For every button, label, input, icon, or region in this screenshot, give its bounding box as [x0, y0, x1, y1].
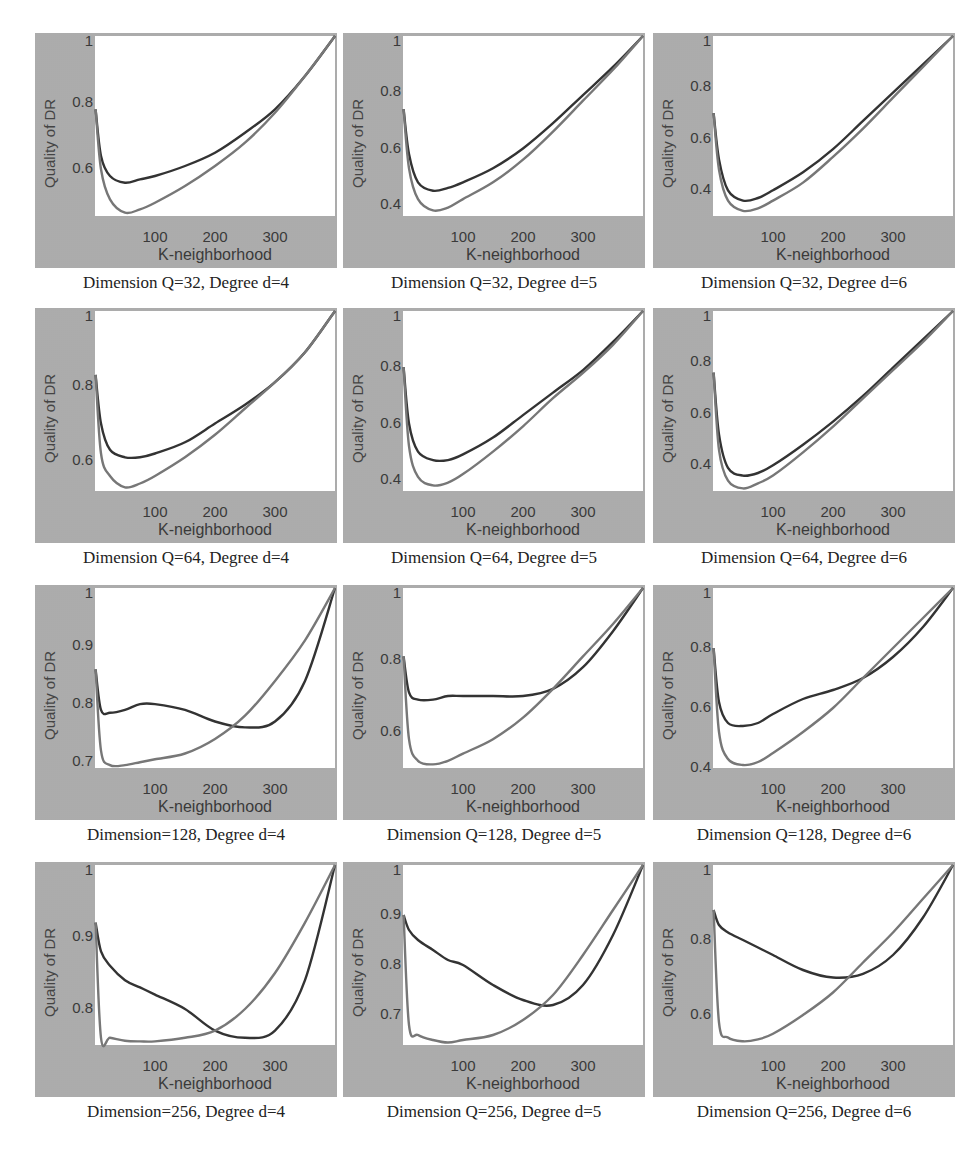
y-tick-label: 1 [369, 32, 401, 49]
chart-panel-10: Quality of DR K-neighborhood 100 200 300… [35, 862, 337, 1137]
x-tick-label: 100 [753, 228, 793, 245]
x-tick-label: 100 [135, 503, 175, 520]
series-line-dark [404, 311, 643, 461]
series-line-dark [96, 36, 335, 183]
chart-panel-7: Quality of DR K-neighborhood 100 200 300… [35, 585, 337, 860]
series-line-dark [404, 36, 643, 191]
series-line-light [96, 311, 335, 488]
panel-caption: Dimension Q=256, Degree d=6 [643, 1102, 965, 1122]
panel-caption: Dimension Q=32, Degree d=5 [333, 273, 655, 293]
panel-caption: Dimension=256, Degree d=4 [25, 1102, 347, 1122]
x-tick-label: 200 [813, 780, 853, 797]
y-axis-label: Quality of DR [349, 374, 366, 463]
series-line-light [714, 588, 953, 765]
y-tick-label: 0.8 [679, 77, 711, 94]
series-line-dark [714, 865, 953, 978]
panel-caption: Dimension Q=64, Degree d=4 [25, 548, 347, 568]
y-tick-label: 0.8 [61, 999, 93, 1016]
y-tick-label: 0.9 [369, 905, 401, 922]
y-axis-label: Quality of DR [349, 651, 366, 740]
x-tick-label: 300 [563, 1057, 603, 1074]
x-tick-label: 100 [443, 780, 483, 797]
panel-caption: Dimension Q=64, Degree d=6 [643, 548, 965, 568]
y-axis-label: Quality of DR [659, 928, 676, 1017]
series-line-dark [714, 36, 953, 201]
y-tick-label: 1 [679, 32, 711, 49]
x-tick-label: 100 [753, 1057, 793, 1074]
x-axis-label: K-neighborhood [403, 246, 643, 264]
y-axis-label: Quality of DR [41, 374, 58, 463]
y-tick-label: 0.8 [61, 694, 93, 711]
x-tick-label: 300 [563, 503, 603, 520]
y-tick-label: 0.8 [679, 930, 711, 947]
x-tick-label: 100 [443, 1057, 483, 1074]
x-tick-label: 100 [443, 503, 483, 520]
series-line-dark [714, 311, 953, 476]
x-axis-label: K-neighborhood [403, 521, 643, 539]
y-tick-label: 0.4 [369, 195, 401, 212]
chart-panel-12: Quality of DR K-neighborhood 100 200 300… [653, 862, 955, 1137]
x-axis-label: K-neighborhood [713, 521, 953, 539]
chart-panel-1: Quality of DR K-neighborhood 100 200 300… [35, 33, 337, 308]
y-axis-label: Quality of DR [349, 99, 366, 188]
y-tick-label: 0.7 [369, 1005, 401, 1022]
x-axis-label: K-neighborhood [713, 1075, 953, 1093]
x-tick-label: 200 [503, 503, 543, 520]
y-tick-label: 0.6 [679, 404, 711, 421]
panel-caption: Dimension Q=128, Degree d=6 [643, 825, 965, 845]
y-axis-label: Quality of DR [349, 928, 366, 1017]
series-line-light [96, 588, 335, 766]
chart-panel-8: Quality of DR K-neighborhood 100 200 300… [343, 585, 645, 860]
y-tick-label: 0.6 [369, 722, 401, 739]
y-tick-label: 1 [61, 584, 93, 601]
y-tick-label: 1 [679, 861, 711, 878]
x-tick-label: 300 [255, 503, 295, 520]
y-axis-label: Quality of DR [659, 99, 676, 188]
x-tick-label: 200 [195, 503, 235, 520]
series-line-light [404, 311, 643, 486]
x-axis-label: K-neighborhood [95, 246, 335, 264]
y-tick-label: 0.6 [369, 414, 401, 431]
x-tick-label: 200 [195, 228, 235, 245]
series-line-light [714, 311, 953, 488]
panel-caption: Dimension Q=256, Degree d=5 [333, 1102, 655, 1122]
x-axis-label: K-neighborhood [95, 1075, 335, 1093]
y-tick-label: 0.8 [679, 638, 711, 655]
x-tick-label: 100 [135, 1057, 175, 1074]
chart-panel-9: Quality of DR K-neighborhood 100 200 300… [653, 585, 955, 860]
chart-panel-4: Quality of DR K-neighborhood 100 200 300… [35, 308, 337, 583]
x-tick-label: 300 [873, 228, 913, 245]
x-tick-label: 100 [135, 780, 175, 797]
series-line-dark [404, 588, 643, 700]
panel-caption: Dimension Q=32, Degree d=6 [643, 273, 965, 293]
y-tick-label: 1 [61, 32, 93, 49]
x-axis-label: K-neighborhood [713, 246, 953, 264]
y-tick-label: 0.8 [679, 352, 711, 369]
chart-panel-5: Quality of DR K-neighborhood 100 200 300… [343, 308, 645, 583]
series-line-light [714, 36, 953, 211]
x-tick-label: 200 [195, 780, 235, 797]
y-tick-label: 1 [369, 307, 401, 324]
y-tick-label: 0.6 [679, 1005, 711, 1022]
x-tick-label: 300 [255, 1057, 295, 1074]
x-tick-label: 200 [813, 503, 853, 520]
x-tick-label: 100 [753, 503, 793, 520]
x-tick-label: 300 [873, 503, 913, 520]
series-line-dark [404, 865, 643, 1006]
y-axis-label: Quality of DR [41, 928, 58, 1017]
y-tick-label: 0.8 [369, 357, 401, 374]
series-line-light [404, 588, 643, 764]
y-tick-label: 0.7 [61, 752, 93, 769]
x-tick-label: 100 [753, 780, 793, 797]
x-tick-label: 100 [443, 228, 483, 245]
x-tick-label: 100 [135, 228, 175, 245]
y-tick-label: 1 [369, 584, 401, 601]
panel-caption: Dimension Q=128, Degree d=5 [333, 825, 655, 845]
y-axis-label: Quality of DR [659, 374, 676, 463]
x-tick-label: 300 [255, 780, 295, 797]
y-tick-label: 1 [61, 861, 93, 878]
series-line-light [404, 36, 643, 211]
y-tick-label: 0.6 [61, 451, 93, 468]
y-tick-label: 0.6 [61, 159, 93, 176]
panel-caption: Dimension Q=32, Degree d=4 [25, 273, 347, 293]
